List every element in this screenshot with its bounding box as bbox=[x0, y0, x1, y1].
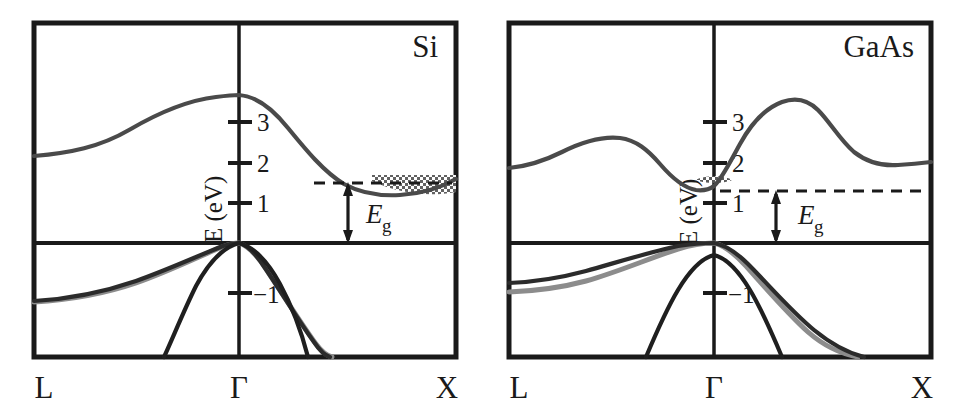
ytick-label-1: 1 bbox=[257, 190, 270, 217]
kpoint-label-L: L bbox=[510, 370, 529, 405]
eg-label-symbol: E bbox=[365, 199, 383, 229]
si-plot-svg: 3 2 1 −1 E (eV) Si bbox=[0, 0, 478, 409]
panel-si: 3 2 1 −1 E (eV) Si bbox=[0, 0, 478, 409]
kpoint-label-L: L bbox=[35, 370, 54, 405]
panel-title-gaas: GaAs bbox=[843, 29, 914, 64]
ytick-label-3: 3 bbox=[732, 109, 745, 136]
heavy-hole-band-curve bbox=[509, 243, 864, 357]
kpoint-label-Gamma: Γ bbox=[230, 370, 248, 405]
split-off-band-curve bbox=[509, 243, 858, 357]
eg-label-subscript: g bbox=[382, 215, 392, 236]
band-structure-figure: 3 2 1 −1 E (eV) Si bbox=[0, 0, 956, 409]
y-axis-title: E (eV) bbox=[200, 176, 228, 243]
kpoint-label-X: X bbox=[911, 370, 933, 405]
plot-frame bbox=[34, 23, 456, 357]
heavy-hole-band-curve bbox=[34, 243, 330, 357]
eg-label-symbol: E bbox=[797, 200, 815, 230]
panel-gaas: 3 2 1 −1 E (eV) GaAs bbox=[478, 0, 956, 409]
ytick-label-3: 3 bbox=[257, 109, 270, 136]
ytick-label-1: 1 bbox=[732, 190, 745, 217]
kpoint-label-X: X bbox=[436, 370, 458, 405]
gaas-plot-svg: 3 2 1 −1 E (eV) GaAs bbox=[478, 0, 956, 409]
kpoint-label-Gamma: Γ bbox=[705, 370, 723, 405]
conduction-band-curve bbox=[509, 100, 931, 191]
eg-label-subscript: g bbox=[814, 216, 824, 237]
ytick-label-2: 2 bbox=[257, 150, 270, 177]
panel-title-si: Si bbox=[412, 29, 438, 64]
